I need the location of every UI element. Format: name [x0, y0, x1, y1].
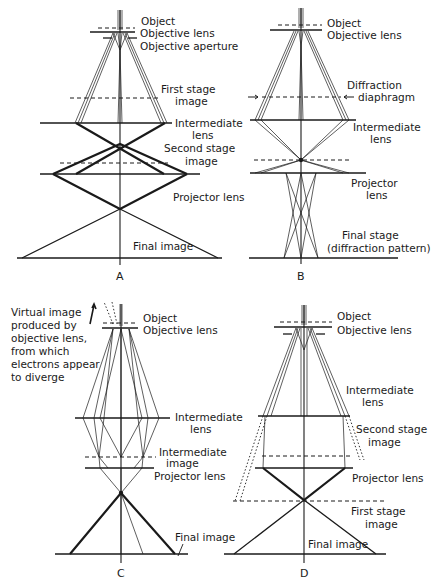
label-intermediate-image-2: image	[166, 457, 199, 469]
label-intermediate-2: lens	[362, 396, 384, 408]
label-first-stage: First stage	[161, 83, 216, 95]
label-virtual-3: objective lens,	[11, 332, 87, 344]
label-objective-lens: Objective lens	[143, 324, 218, 336]
panel-a: Object Objective lens Objective aperture…	[17, 10, 245, 283]
label-virtual-2: produced by	[11, 319, 77, 331]
panel-c: Virtual image produced by objective lens…	[11, 302, 243, 580]
panel-label-a: A	[116, 270, 124, 283]
label-final-stage-2: (diffraction pattern)	[327, 242, 431, 254]
panel-b: Object Objective lens Diffraction diaphr…	[248, 8, 431, 283]
label-virtual-4: from which	[11, 345, 69, 357]
label-intermediate-2: lens	[192, 129, 214, 141]
label-objective-aperture: Objective aperture	[140, 40, 238, 52]
panel-label-b: B	[297, 270, 305, 283]
label-first-stage: First stage	[351, 505, 406, 517]
label-virtual-5: electrons appear	[11, 358, 100, 370]
label-final-stage: Final stage	[342, 229, 399, 241]
label-intermediate-lens-2: lens	[190, 423, 212, 435]
label-diffraction: Diffraction	[347, 79, 402, 91]
label-projector-lens: Projector lens	[352, 472, 424, 484]
label-object: Object	[327, 17, 361, 29]
label-object: Object	[337, 310, 371, 322]
label-final-image: Final image	[175, 531, 235, 543]
label-second-stage-2: image	[185, 155, 218, 167]
ray-diagram-figure: Object Objective lens Objective aperture…	[0, 0, 444, 586]
label-final-image: Final image	[133, 240, 193, 252]
label-projector-lens: Projector lens	[154, 470, 226, 482]
label-intermediate: Intermediate	[175, 117, 243, 129]
label-object: Object	[141, 15, 175, 27]
label-first-stage-2: image	[175, 95, 208, 107]
label-projector: Projector	[351, 177, 398, 189]
panel-d: Object Objective lens Intermediate lens …	[224, 305, 427, 580]
label-virtual-1: Virtual image	[11, 306, 81, 318]
rays-b	[255, 31, 349, 258]
label-second-stage-2: image	[368, 436, 401, 448]
label-projector-2: lens	[366, 189, 388, 201]
label-second-stage: Second stage	[356, 423, 427, 435]
label-objective-lens: Objective lens	[337, 324, 412, 336]
label-first-stage-2: image	[365, 518, 398, 530]
label-intermediate: Intermediate	[346, 384, 414, 396]
label-intermediate: Intermediate	[353, 121, 421, 133]
label-diffraction-2: diaphragm	[358, 91, 415, 103]
panel-label-d: D	[300, 567, 308, 580]
label-virtual-6: to diverge	[11, 371, 64, 383]
label-second-stage: Second stage	[164, 142, 235, 154]
label-intermediate-lens: Intermediate	[175, 411, 243, 423]
label-object: Object	[143, 312, 177, 324]
label-objective-lens: Objective lens	[327, 29, 402, 41]
label-final-image: Final image	[308, 538, 368, 550]
label-intermediate-2: lens	[370, 133, 392, 145]
rays-d	[263, 328, 349, 468]
panel-label-c: C	[117, 567, 125, 580]
label-objective-lens: Objective lens	[140, 27, 215, 39]
label-projector-lens: Projector lens	[173, 191, 245, 203]
